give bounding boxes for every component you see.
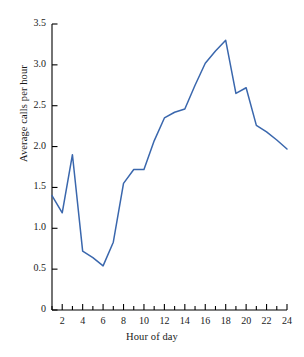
chart-axes	[52, 24, 287, 310]
x-tick-label: 16	[194, 315, 216, 326]
x-tick-label: 20	[235, 315, 257, 326]
series-line	[52, 40, 287, 266]
x-tick-label: 24	[276, 315, 298, 326]
line-chart: 00.51.01.52.02.53.03.5 24681012141618202…	[0, 0, 304, 357]
y-tick-label: 3.5	[16, 17, 46, 28]
x-tick-label: 22	[256, 315, 278, 326]
x-tick-label: 14	[174, 315, 196, 326]
x-tick-label: 4	[72, 315, 94, 326]
x-tick-label: 12	[153, 315, 175, 326]
y-tick-label: 0	[16, 303, 46, 314]
x-tick-label: 2	[51, 315, 73, 326]
x-axis-title: Hour of day	[0, 331, 304, 342]
y-axis-title: Average calls per hour	[18, 29, 29, 199]
x-tick-label: 6	[92, 315, 114, 326]
y-tick-label: 0.5	[16, 262, 46, 273]
x-tick-label: 18	[215, 315, 237, 326]
axis-ticks	[52, 24, 287, 310]
x-tick-label: 8	[113, 315, 135, 326]
data-series	[52, 40, 287, 266]
x-tick-label: 10	[133, 315, 155, 326]
y-tick-label: 1.0	[16, 221, 46, 232]
